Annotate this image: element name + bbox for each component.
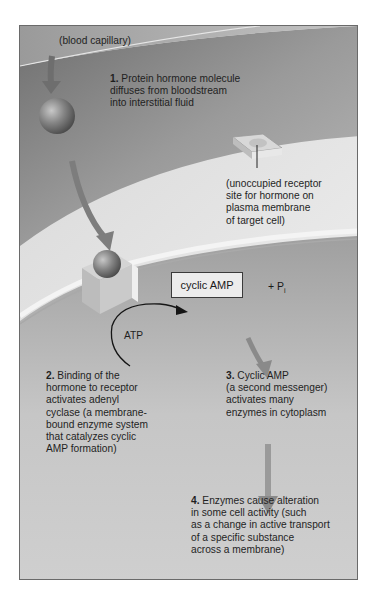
- bound-hormone: [93, 250, 121, 278]
- step-3-text: 3. Cyclic AMP (a second messenger) activ…: [226, 370, 327, 419]
- hormone-molecule: [39, 98, 75, 134]
- label-phosphate: + Pi: [268, 280, 286, 294]
- step-1-text: 1. Protein hormone molecule diffuses fro…: [110, 73, 240, 110]
- diagram-frame: (blood capillary) 1. Protein hormone mol…: [19, 25, 358, 580]
- label-atp: ATP: [124, 330, 143, 342]
- label-receptor-site: (unoccupied receptor site for hormone on…: [226, 178, 322, 227]
- cyclic-amp-box: cyclic AMP: [171, 272, 243, 298]
- label-blood-capillary: (blood capillary): [59, 35, 131, 47]
- step-4-text: 4. Enzymes cause alteration in some cell…: [191, 495, 330, 556]
- step-2-text: 2. Binding of the hormone to receptor ac…: [46, 370, 148, 455]
